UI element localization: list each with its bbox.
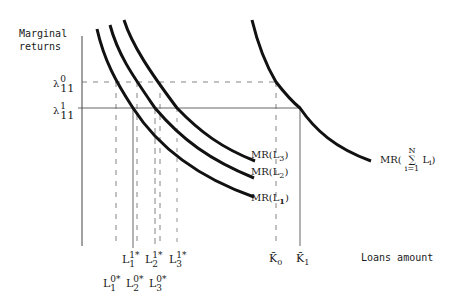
sum-lower-limit: i=1 — [405, 164, 419, 173]
tick-sub: 1 — [129, 260, 139, 269]
l2-0-star-label: L0*2 — [126, 275, 144, 293]
k0-sub: 0 — [277, 258, 282, 267]
lambda1-tick-label: λ111 — [53, 101, 74, 121]
l1-0-star-label: L0*1 — [103, 275, 121, 293]
lambda0-sub: 11 — [60, 84, 74, 94]
diagram-canvas: Marginal returns λ011 λ111 MR(L3) MR(L2)… — [0, 0, 454, 308]
mr-l3-label-end: ) — [284, 149, 288, 160]
mr-aggregate-curve — [252, 20, 371, 161]
tick-star: * — [116, 274, 121, 284]
mr-l1-label: MR(L1) — [251, 193, 289, 205]
mr-agg-prefix: MR( — [380, 154, 402, 165]
tick-base: L — [126, 277, 133, 290]
lambda1-sub: 11 — [60, 111, 74, 121]
tick-star: * — [162, 274, 167, 284]
l2-1-star-label: L1*2 — [145, 251, 163, 269]
tick-star: * — [158, 250, 163, 260]
tick-base: L — [122, 253, 129, 266]
k0-label: K̄0 — [269, 253, 282, 267]
tick-star: * — [139, 274, 144, 284]
lambda-symbol: λ — [53, 78, 59, 89]
sum-symbol: ∑ — [405, 155, 419, 164]
mr-l3-label-base: MR(L — [251, 149, 279, 160]
y-axis-label-line1: Marginal — [19, 27, 67, 40]
tick-star: * — [182, 250, 187, 260]
k1-base: K̄ — [296, 252, 304, 265]
k1-sub: 1 — [304, 258, 309, 267]
l3-0-star-label: L0*3 — [149, 275, 167, 293]
tick-sub: 1 — [110, 284, 120, 293]
mr-aggregate-label: MR( N ∑ i=1 Li) — [380, 146, 436, 173]
mr-l2-label-base: MR(L — [251, 166, 279, 177]
tick-base: L — [145, 253, 152, 266]
tick-star: * — [135, 250, 140, 260]
mr-l1-label-base: MR(L — [251, 192, 279, 203]
lambda0-tick-label: λ011 — [53, 74, 74, 94]
tick-sub: 2 — [133, 284, 143, 293]
summation: N ∑ i=1 — [405, 146, 419, 173]
y-axis-label: Marginal returns — [19, 27, 67, 53]
k0-base: K̄ — [269, 252, 277, 265]
mr-l2-label-end: ) — [284, 166, 288, 177]
lambda-symbol: λ — [53, 105, 59, 116]
mr-l1-label-end: ) — [285, 192, 289, 203]
tick-sub: 3 — [156, 284, 166, 293]
tick-sub: 2 — [152, 260, 162, 269]
tick-base: L — [103, 277, 110, 290]
l1-1-star-label: L1*1 — [122, 251, 140, 269]
k1-label: K̄1 — [296, 253, 309, 267]
mr-agg-end: ) — [432, 154, 436, 165]
x-axis-label: Loans amount — [361, 253, 433, 263]
y-axis-label-line2: returns — [19, 40, 67, 53]
l3-1-star-label: L1*3 — [169, 251, 187, 269]
tick-sub: 3 — [176, 260, 186, 269]
mr-l2-label: MR(L2) — [251, 167, 288, 180]
tick-base: L — [149, 277, 156, 290]
mr-l3-label: MR(L3) — [251, 150, 288, 163]
tick-base: L — [169, 253, 176, 266]
mr-l2-curve — [110, 25, 254, 178]
